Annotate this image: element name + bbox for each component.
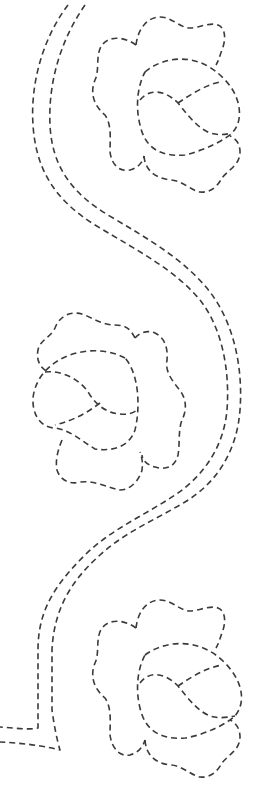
vine-outer-line <box>0 5 228 729</box>
quilting-stencil-canvas: Quilting stencil: vine border with three… <box>0 0 267 790</box>
flower-middle <box>33 313 185 490</box>
stencil-drawing <box>0 0 267 790</box>
flower-top <box>93 17 240 192</box>
vine-inner-line <box>0 5 241 750</box>
flower-bottom <box>93 600 242 777</box>
